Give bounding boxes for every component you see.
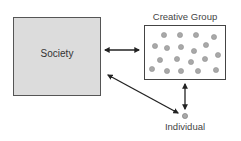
group-member-dot [149, 66, 154, 71]
creative-group-members [149, 32, 220, 73]
individual-label: Individual [155, 121, 215, 132]
group-member-dot [178, 68, 183, 73]
group-member-dot [152, 43, 157, 48]
group-member-dot [211, 34, 216, 39]
group-member-dot [157, 57, 162, 62]
group-member-dot [174, 56, 179, 61]
group-member-dot [161, 32, 166, 37]
group-member-dot [193, 32, 198, 37]
individual-node [182, 113, 187, 118]
group-member-dot [164, 68, 169, 73]
group-member-dot [164, 45, 169, 50]
group-member-dot [191, 48, 196, 53]
group-member-dot [188, 59, 193, 64]
group-member-dot [195, 68, 200, 73]
group-member-dot [177, 32, 182, 37]
diagram-overlay [0, 0, 241, 141]
group-member-dot [178, 44, 183, 49]
group-member-dot [213, 67, 218, 72]
group-member-dot [202, 56, 207, 61]
society-individual-arrow [108, 75, 178, 113]
group-member-dot [215, 52, 220, 57]
group-member-dot [203, 42, 208, 47]
